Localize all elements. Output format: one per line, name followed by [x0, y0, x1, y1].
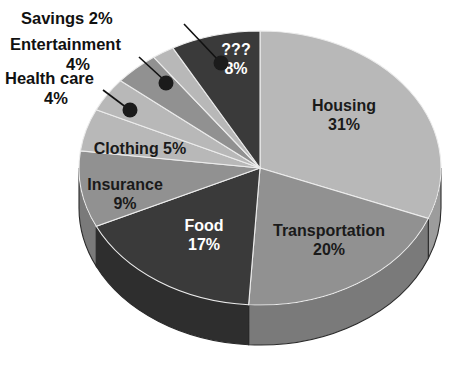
- callout-label-savings-line1: Savings 2%: [21, 9, 113, 27]
- pie-chart-figure: Housing31%Transportation20%Food17%Insura…: [0, 0, 463, 365]
- callout-label-health-care-line1: Health care: [5, 69, 94, 87]
- callout-dot-entertainment: [159, 76, 174, 91]
- callout-dot-savings: [214, 56, 229, 71]
- callout-label-health-care-line2: 4%: [44, 89, 68, 107]
- pie-chart-canvas: Housing31%Transportation20%Food17%Insura…: [0, 0, 463, 365]
- callout-label-entertainment-line1: Entertainment: [10, 35, 121, 53]
- callout-dot-health-care: [123, 103, 138, 118]
- pie-top-faces: [79, 31, 441, 305]
